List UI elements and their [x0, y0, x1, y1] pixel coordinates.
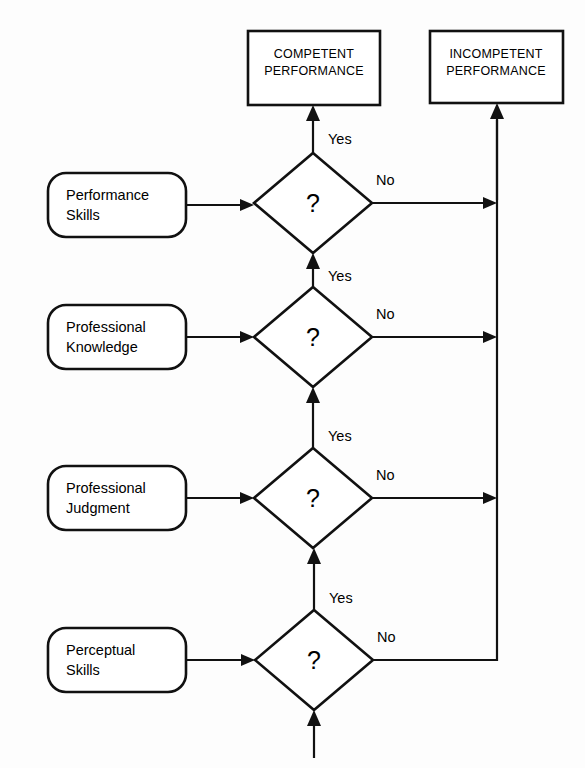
input-professional-knowledge-line1: Professional — [66, 319, 146, 335]
decision-4-yes-label: Yes — [329, 590, 353, 606]
decision-1-no-label: No — [376, 172, 395, 188]
terminal-competent-performance: COMPETENT PERFORMANCE — [248, 31, 380, 105]
input-perceptual-skills: Perceptual Skills — [48, 628, 186, 692]
decision-4: ? — [255, 610, 373, 710]
input-professional-judgment-box — [48, 466, 186, 530]
decision-3-yes-label: Yes — [328, 428, 352, 444]
decision-2-no-label: No — [376, 306, 395, 322]
input-performance-skills-line1: Performance — [66, 187, 149, 203]
connector-spine-to-incompetent-terminal — [490, 103, 504, 200]
connector-decision1-no-to-incompetent: No — [372, 172, 497, 209]
input-performance-skills-line2: Skills — [66, 207, 100, 223]
connector-decision2-yes-to-decision1: Yes — [306, 253, 352, 287]
connector-input3-to-decision3 — [186, 492, 254, 504]
connector-input1-to-decision1 — [186, 199, 254, 211]
input-performance-skills: Performance Skills — [48, 173, 186, 237]
input-professional-judgment-line1: Professional — [66, 480, 146, 496]
decision-2: ? — [254, 287, 372, 387]
connector-bottom-entry — [307, 710, 321, 758]
input-perceptual-skills-line1: Perceptual — [66, 642, 135, 658]
terminal-incompetent-line1: INCOMPETENT — [449, 47, 542, 61]
decision-2-question-mark: ? — [306, 323, 320, 351]
flowchart-svg: COMPETENT PERFORMANCE INCOMPETENT PERFOR… — [0, 0, 585, 768]
flowchart-canvas: COMPETENT PERFORMANCE INCOMPETENT PERFOR… — [0, 0, 585, 768]
terminal-competent-line2: PERFORMANCE — [264, 64, 363, 78]
input-professional-knowledge-line2: Knowledge — [66, 339, 138, 355]
terminal-competent-line1: COMPETENT — [274, 47, 354, 61]
decision-2-yes-label: Yes — [328, 268, 352, 284]
input-professional-knowledge: Professional Knowledge — [48, 305, 186, 369]
input-professional-judgment: Professional Judgment — [48, 466, 186, 530]
connector-decision4-no-to-incompetent: No — [373, 120, 497, 660]
input-performance-skills-box — [48, 173, 186, 237]
decision-3-question-mark: ? — [306, 484, 320, 512]
connector-decision2-no-to-incompetent: No — [372, 306, 497, 343]
connector-input2-to-decision2 — [186, 331, 254, 343]
decision-3: ? — [254, 448, 372, 548]
connector-decision3-yes-to-decision2: Yes — [306, 387, 352, 448]
decision-4-question-mark: ? — [307, 646, 321, 674]
decision-1: ? — [254, 153, 372, 253]
terminal-incompetent-performance: INCOMPETENT PERFORMANCE — [430, 31, 563, 103]
input-perceptual-skills-box — [48, 628, 186, 692]
decision-4-no-label: No — [377, 629, 396, 645]
decision-3-no-label: No — [376, 467, 395, 483]
input-professional-knowledge-box — [48, 305, 186, 369]
input-perceptual-skills-line2: Skills — [66, 662, 100, 678]
input-professional-judgment-line2: Judgment — [66, 500, 130, 516]
connector-decision4-yes-to-decision3: Yes — [307, 548, 353, 610]
decision-1-yes-label: Yes — [328, 131, 352, 147]
decision-1-question-mark: ? — [306, 189, 320, 217]
terminal-incompetent-line2: PERFORMANCE — [446, 64, 545, 78]
connector-decision1-yes-to-competent: Yes — [306, 105, 352, 153]
connector-input4-to-decision4 — [186, 654, 255, 666]
connector-decision3-no-to-incompetent: No — [372, 467, 497, 504]
